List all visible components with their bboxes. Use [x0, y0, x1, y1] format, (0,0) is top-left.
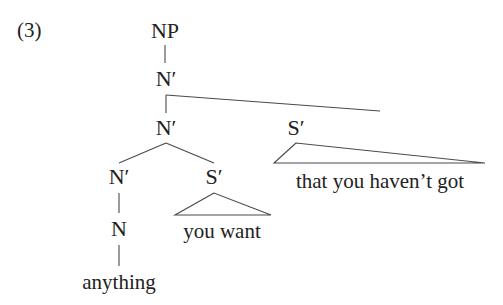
node-n-bar-top: N′: [156, 66, 177, 91]
node-n-bar-low: N′: [109, 164, 130, 189]
edge-nbar-sbar: [166, 95, 380, 111]
phrase-you-want: you want: [183, 219, 261, 243]
node-n-bar-mid: N′: [156, 115, 177, 140]
word-anything: anything: [82, 270, 156, 294]
edge-nbar-nbar-low: [119, 143, 166, 163]
triangle-that-you-havent-got: [274, 143, 485, 163]
edge-nbar-sbar-mid: [166, 143, 214, 163]
node-s-bar-right: S′: [287, 115, 304, 140]
node-np: NP: [151, 18, 179, 43]
example-number: (3): [17, 18, 42, 42]
node-n: N: [111, 216, 127, 241]
phrase-that-you-havent-got: that you haven’t got: [296, 169, 464, 193]
node-s-bar-mid: S′: [205, 164, 222, 189]
triangle-you-want: [175, 193, 271, 215]
syntax-tree: (3) NP N′ N′ S′ N′ S′ N anything you wan…: [0, 0, 503, 305]
